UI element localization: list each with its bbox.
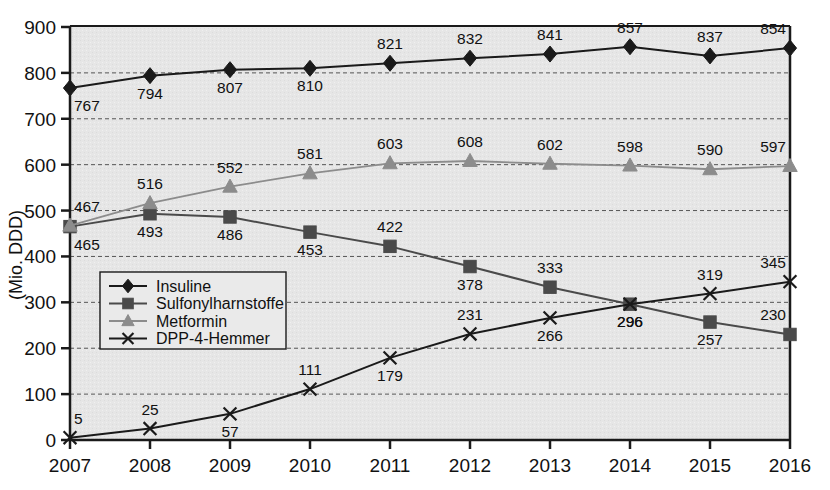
data-point-label: 590 [697,141,723,158]
legend-label: DPP-4-Hemmer [156,330,270,347]
plot-area [70,27,790,440]
y-axis-tick-label: 300 [24,292,56,313]
x-axis-tick-label: 2011 [370,455,411,476]
data-point-square-marker [224,211,236,223]
data-point-label: 57 [221,423,238,440]
data-point-square-marker [704,316,716,328]
data-point-label: 857 [617,19,643,36]
data-point-label: 257 [697,331,723,348]
data-point-label: 266 [537,327,563,344]
y-axis-tick-label: 0 [45,430,56,451]
data-point-label: 608 [457,133,483,150]
line-chart: 0100200300400500600700800900 20072008200… [0,0,830,490]
x-axis-tick-label: 2010 [289,455,331,476]
y-axis-tick-label: 200 [24,338,56,359]
data-point-label: 25 [141,401,158,418]
x-axis-tick-label: 2015 [689,455,731,476]
data-point-label: 230 [760,306,786,323]
data-point-label: 179 [377,367,403,384]
plot-background [70,27,790,440]
data-point-label: 581 [297,145,323,162]
data-point-label: 5 [74,410,83,427]
data-point-label: 319 [697,266,723,283]
data-point-label: 821 [377,35,403,52]
data-point-label: 794 [137,85,163,102]
data-point-label: 422 [377,218,403,235]
data-point-label: 767 [74,97,100,114]
data-point-label: 810 [297,77,323,94]
data-point-label: 296 [617,313,643,330]
data-point-label: 111 [298,361,322,378]
data-point-label: 841 [537,26,563,43]
data-point-label: 552 [217,159,243,176]
data-point-label: 598 [617,138,643,155]
data-point-label: 603 [377,135,403,152]
x-axis-tick-label: 2009 [209,455,251,476]
x-axis-tick-label: 2008 [129,455,171,476]
data-point-square-marker [384,240,396,252]
data-point-square-marker [464,260,476,272]
data-point-label: 807 [217,79,243,96]
data-point-label: 493 [137,223,163,240]
y-axis-tick-label: 700 [24,109,56,130]
data-point-label: 837 [697,28,723,45]
x-axis-tick-label: 2012 [449,455,491,476]
data-point-square-marker [544,281,556,293]
y-axis-tick-label: 100 [24,384,56,405]
data-point-label: 467 [74,198,100,215]
x-axis-tick-label: 2016 [769,455,811,476]
data-point-label: 602 [537,136,563,153]
data-point-label: 465 [74,236,100,253]
x-axis-tick-label: 2007 [49,455,91,476]
data-point-square-marker [784,328,796,340]
data-point-label: 854 [760,20,786,37]
legend-label: Insuline [156,278,211,295]
data-point-label: 333 [537,259,563,276]
data-point-square-marker [144,208,156,220]
y-axis-title-text: (Mio. DDD) [6,210,26,300]
data-point-label: 486 [217,226,243,243]
y-axis-tick-label: 400 [24,246,56,267]
data-point-square-marker [304,226,316,238]
chart-container: 0100200300400500600700800900 20072008200… [0,0,830,490]
data-point-label: 516 [137,175,163,192]
y-axis-tick-label: 500 [24,201,56,222]
y-axis: 0100200300400500600700800900 [24,17,70,451]
legend-label: Sulfonylharnstoffe [156,295,284,312]
chart-legend: InsulineSulfonylharnstoffeMetforminDPP-4… [100,272,286,349]
y-axis-title: (Mio. DDD) [6,210,26,300]
data-point-square-marker [123,298,134,309]
y-axis-tick-label: 900 [24,17,56,38]
data-point-label: 231 [457,306,483,323]
data-point-label: 597 [760,138,786,155]
data-point-label: 832 [457,30,483,47]
y-axis-tick-label: 800 [24,63,56,84]
legend-label: Metformin [156,313,227,330]
data-point-label: 378 [457,276,483,293]
data-point-label: 345 [760,254,786,271]
data-point-label: 453 [297,241,323,258]
x-axis-tick-label: 2014 [609,455,652,476]
x-axis-tick-label: 2013 [529,455,571,476]
y-axis-tick-label: 600 [24,155,56,176]
